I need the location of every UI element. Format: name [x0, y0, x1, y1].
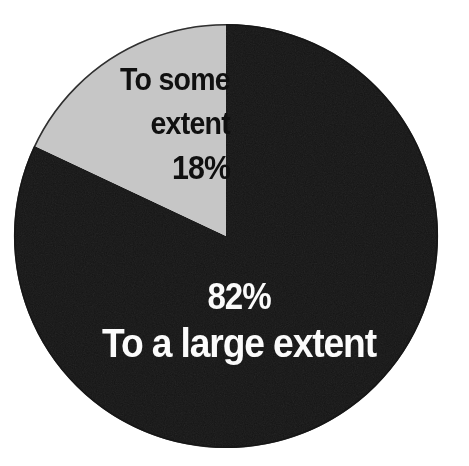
slice-small-name-line-1: To some: [74, 58, 230, 102]
slice-small-labels: To some extent 18%: [60, 58, 230, 190]
pie-chart: To some extent 18% 82% To a large extent: [0, 0, 469, 466]
slice-large-name: To a large extent: [48, 319, 429, 367]
slice-small-percent: 18%: [74, 146, 230, 190]
slice-large-percent: 82%: [50, 274, 427, 319]
slice-large-labels: 82% To a large extent: [34, 274, 444, 367]
slice-small-name-line-2: extent: [74, 102, 230, 146]
